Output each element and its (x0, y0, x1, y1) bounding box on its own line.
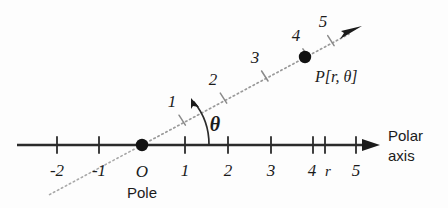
axis-tick-label-4: 4 (308, 161, 317, 180)
ray-tick-label-1: 1 (168, 92, 177, 111)
angle-annotation-group (191, 98, 209, 145)
axis-tick-label-r: r (325, 163, 331, 179)
ray-tick-label-5: 5 (319, 12, 328, 31)
pole-marker (136, 139, 148, 151)
ray-tick-label-4: 4 (292, 26, 301, 45)
point-p-label: P[r, θ] (314, 68, 358, 85)
theta-symbol-label: θ (210, 113, 221, 135)
polar-coordinate-figure: 1 2 3 4 5 -2 -1 O 1 2 3 4 r 5 (0, 0, 448, 208)
axis-tick-label-neg2: -2 (50, 161, 65, 180)
ray-tick-label-3: 3 (250, 48, 260, 67)
figure-canvas: 1 2 3 4 5 -2 -1 O 1 2 3 4 r 5 (0, 0, 448, 208)
axis-tick-label-origin: O (136, 162, 148, 181)
theta-arc (194, 102, 209, 145)
point-p-marker (299, 51, 311, 63)
ray-arrowhead-icon (340, 26, 362, 39)
ray-tick-label-2: 2 (209, 70, 218, 89)
axis-tick-label-1: 1 (181, 161, 190, 180)
axis-tick-label-5: 5 (352, 161, 361, 180)
polar-axis-arrowhead-icon (362, 139, 380, 151)
axis-tick-label-3: 3 (266, 161, 276, 180)
polar-axis-label-line1: Polar (388, 127, 423, 144)
polar-axis-label-line2: axis (388, 147, 415, 164)
axis-tick-label-neg1: -1 (92, 161, 106, 180)
axis-tick-label-2: 2 (224, 161, 233, 180)
pole-caption-label: Pole (127, 184, 157, 201)
ray-line (142, 34, 349, 145)
